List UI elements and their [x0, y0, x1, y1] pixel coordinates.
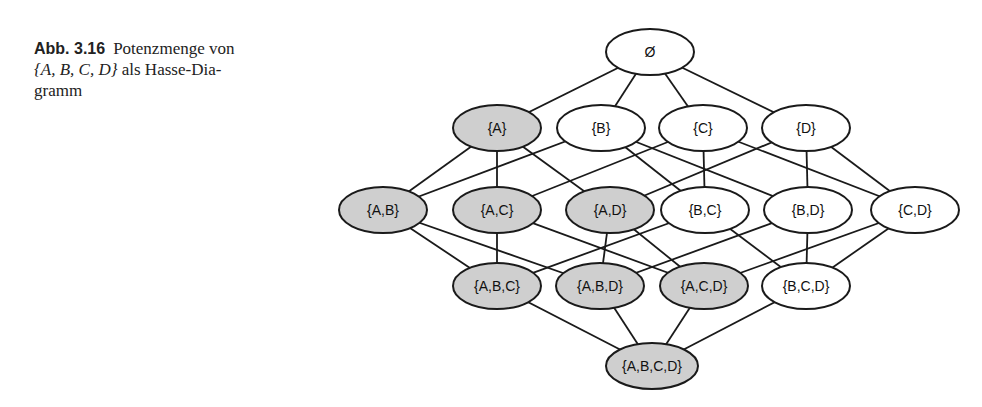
node-D: {D}: [762, 105, 850, 151]
node-AD: {A,D}: [566, 187, 654, 233]
node-label: {B,C,D}: [783, 278, 830, 294]
node-label: {B}: [592, 120, 611, 136]
node-empty: Ø: [606, 29, 694, 75]
node-label: {B,C}: [689, 202, 722, 218]
node-ACD: {A,C,D}: [660, 263, 748, 309]
node-AB: {A,B}: [339, 187, 427, 233]
node-label: {C,D}: [898, 202, 932, 218]
node-AC: {A,C}: [453, 187, 541, 233]
node-label: {A,C}: [481, 202, 514, 218]
node-ABCD: {A,B,C,D}: [606, 343, 698, 389]
node-C: {C}: [659, 105, 747, 151]
node-BCD: {B,C,D}: [762, 263, 850, 309]
node-label: {A,B,C,D}: [622, 358, 682, 374]
node-BC: {B,C}: [661, 187, 749, 233]
node-B: {B}: [557, 105, 645, 151]
node-label: {A,D}: [594, 202, 627, 218]
node-label: {A,B,C}: [474, 278, 520, 294]
node-ABC: {A,B,C}: [453, 263, 541, 309]
node-label: {A,B}: [367, 202, 399, 218]
node-ABD: {A,B,D}: [556, 263, 644, 309]
nodes: Ø{A}{B}{C}{D}{A,B}{A,C}{A,D}{B,C}{B,D}{C…: [339, 29, 959, 389]
node-label: {A}: [488, 120, 507, 136]
node-A: {A}: [453, 105, 541, 151]
node-label: Ø: [645, 44, 656, 60]
node-label: {B,D}: [792, 202, 825, 218]
node-BD: {B,D}: [764, 187, 852, 233]
node-label: {D}: [796, 120, 816, 136]
node-CD: {C,D}: [871, 187, 959, 233]
hasse-diagram: Ø{A}{B}{C}{D}{A,B}{A,C}{A,D}{B,C}{B,D}{C…: [0, 0, 982, 407]
node-label: {A,C,D}: [681, 278, 728, 294]
node-label: {C}: [693, 120, 713, 136]
node-label: {A,B,D}: [577, 278, 623, 294]
